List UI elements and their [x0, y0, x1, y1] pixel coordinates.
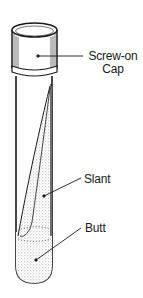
butt-region: [16, 232, 52, 290]
screw-on-cap-label: Screw-on Cap: [85, 50, 141, 76]
screw-cap: [12, 23, 57, 76]
slant-label: Slant: [84, 173, 110, 186]
butt-label: Butt: [85, 222, 106, 235]
cap-label-line2: Cap: [85, 63, 141, 76]
test-tube-diagram: [0, 0, 143, 298]
